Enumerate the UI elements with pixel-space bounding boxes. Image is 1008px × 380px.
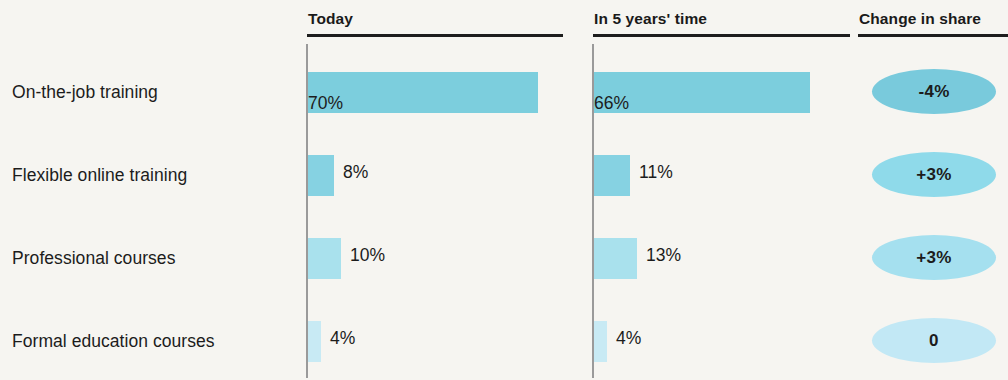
change-badge: 0 xyxy=(872,318,996,363)
bar-today: 70% xyxy=(308,72,538,113)
column-header-change-in-share: Change in share xyxy=(859,10,981,28)
row-label: Formal education courses xyxy=(12,331,215,352)
bar-today xyxy=(308,238,341,279)
column-header-today: Today xyxy=(308,10,353,28)
chart-row: On-the-job training 70% 66% -4% xyxy=(0,61,1008,144)
bar-value-future: 4% xyxy=(616,328,641,349)
bar-today xyxy=(308,155,334,196)
chart-row: Flexible online training 8% 11% +3% xyxy=(0,144,1008,227)
row-label: Professional courses xyxy=(12,248,175,269)
bar-value-today: 70% xyxy=(308,83,343,124)
bar-future xyxy=(594,155,630,196)
bar-future: 66% xyxy=(594,72,810,113)
header-rule-future xyxy=(593,34,850,37)
bar-value-today: 8% xyxy=(343,162,368,183)
bar-today xyxy=(308,321,321,362)
bar-value-future: 66% xyxy=(594,83,629,124)
header-rule-today xyxy=(307,34,563,37)
row-label: On-the-job training xyxy=(12,82,158,103)
chart-row: Formal education courses 4% 4% 0 xyxy=(0,310,1008,380)
chart-row: Professional courses 10% 13% +3% xyxy=(0,227,1008,310)
bar-future xyxy=(594,321,607,362)
bar-value-future: 11% xyxy=(639,162,673,183)
column-header-future: In 5 years' time xyxy=(594,10,707,28)
bar-value-today: 4% xyxy=(330,328,355,349)
bar-value-future: 13% xyxy=(646,245,681,266)
change-badge: -4% xyxy=(872,69,996,114)
bar-value-today: 10% xyxy=(350,245,385,266)
bar-future xyxy=(594,238,637,279)
header-rule-change xyxy=(858,34,1008,37)
row-label: Flexible online training xyxy=(12,165,187,186)
change-badge: +3% xyxy=(872,235,996,280)
comparison-bar-chart: Today In 5 years' time Change in share O… xyxy=(0,0,1008,380)
change-badge: +3% xyxy=(872,152,996,197)
